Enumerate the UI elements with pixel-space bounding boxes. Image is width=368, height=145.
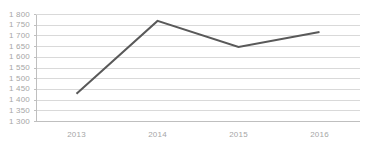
chart-plot-area bbox=[0, 0, 368, 145]
y-axis-tick-label: 1 550 bbox=[0, 64, 30, 72]
chart-background bbox=[0, 0, 368, 145]
y-axis-tick-label: 1 650 bbox=[0, 43, 30, 51]
y-axis-tick-label: 1 350 bbox=[0, 107, 30, 115]
y-axis-tick-label: 1 400 bbox=[0, 96, 30, 104]
y-axis-tick-label: 1 300 bbox=[0, 118, 30, 126]
x-axis-tick-label: 2015 bbox=[229, 131, 248, 139]
y-axis-tick-label: 1 700 bbox=[0, 32, 30, 40]
line-chart: 1 8001 7501 7001 6501 6001 5501 5001 450… bbox=[0, 0, 368, 145]
y-axis-tick-label: 1 600 bbox=[0, 53, 30, 61]
y-axis-tick-label: 1 750 bbox=[0, 21, 30, 29]
x-axis-tick-label: 2016 bbox=[310, 131, 329, 139]
y-axis-tick-label: 1 800 bbox=[0, 11, 30, 19]
x-axis-tick-label: 2013 bbox=[67, 131, 86, 139]
y-axis-tick-label: 1 500 bbox=[0, 75, 30, 83]
y-axis-tick-label: 1 450 bbox=[0, 85, 30, 93]
x-axis-tick-label: 2014 bbox=[148, 131, 167, 139]
